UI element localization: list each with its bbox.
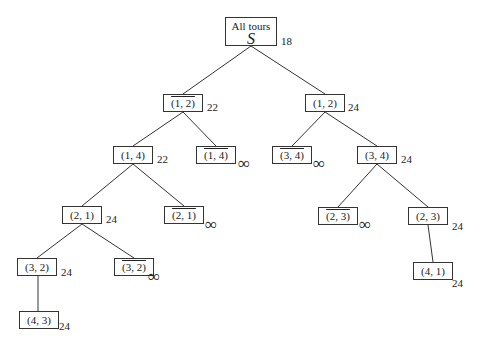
node-label: (3, 4) (280, 147, 304, 163)
tree-node-4-3: (4, 3) (19, 311, 59, 329)
node-cost: 24 (452, 220, 463, 232)
node-cost: ∞ (205, 218, 217, 232)
edge-n34-n23 (377, 164, 428, 207)
node-label: (1, 2) (313, 95, 337, 111)
node-label: (3, 2) (25, 259, 49, 275)
tree-node-not-2-1: (2, 1) (164, 206, 204, 224)
tree-node-not-1-4: (1, 4) (196, 146, 236, 164)
edge-n14-n21bar (133, 164, 184, 206)
node-cost: 22 (207, 101, 218, 113)
tree-node-4-1: (4, 1) (413, 262, 453, 280)
node-cost: ∞ (238, 157, 250, 171)
node-cost: ∞ (359, 218, 371, 232)
node-cost: 22 (157, 153, 168, 165)
node-label: (2, 1) (70, 207, 94, 223)
edge-n34-n23bar (338, 164, 377, 207)
edge-n23-n41 (428, 225, 433, 262)
edge-n12bar-n14 (133, 112, 183, 146)
edge-n12bar-n14bar (183, 112, 216, 146)
node-cost: 24 (61, 266, 72, 278)
node-label: (3, 4) (365, 147, 389, 163)
tree-node-not-1-2: (1, 2) (163, 94, 203, 112)
node-cost: 24 (348, 101, 359, 113)
root-cost: 18 (281, 35, 292, 47)
edge-n21-n32 (37, 224, 82, 258)
edge-n12-n34 (325, 112, 377, 146)
node-label: (4, 1) (421, 263, 445, 279)
edge-n21-n32bar (82, 224, 134, 258)
node-label: (1, 4) (204, 147, 228, 163)
tree-edges (0, 0, 482, 346)
node-cost: ∞ (313, 157, 325, 171)
tree-node-3-4: (3, 4) (357, 146, 397, 164)
tree-node-2-3: (2, 3) (408, 207, 448, 225)
node-label: (1, 2) (171, 95, 195, 111)
node-cost: 24 (59, 320, 70, 332)
tree-node-2-1: (2, 1) (62, 206, 102, 224)
tree-node-3-2: (3, 2) (17, 258, 57, 276)
tree-node-root: All tours S (225, 17, 277, 46)
node-cost: 24 (452, 277, 463, 289)
edge-n12-n34bar (292, 112, 325, 146)
tree-node-1-2: (1, 2) (305, 94, 345, 112)
edge-n14-n21 (82, 164, 133, 206)
tree-node-not-3-4: (3, 4) (272, 146, 312, 164)
node-label: (3, 2) (122, 259, 146, 275)
root-symbol: S (226, 32, 276, 46)
tree-node-not-2-3: (2, 3) (318, 207, 358, 225)
node-cost: ∞ (148, 270, 160, 284)
node-cost: 24 (401, 153, 412, 165)
node-label: (2, 3) (326, 208, 350, 224)
node-cost: 24 (106, 213, 117, 225)
tree-node-1-4: (1, 4) (113, 146, 153, 164)
node-label: (1, 4) (121, 147, 145, 163)
node-label: (2, 1) (172, 207, 196, 223)
edge-root-n12bar (183, 46, 251, 94)
node-label: (2, 3) (416, 208, 440, 224)
edge-root-n12 (251, 46, 325, 94)
node-label: (4, 3) (27, 312, 51, 328)
